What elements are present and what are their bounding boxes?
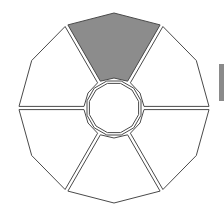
- wheel-diagram: [0, 0, 224, 214]
- center-hub[interactable]: [89, 83, 138, 132]
- side-tab[interactable]: [219, 64, 224, 101]
- dodecagon-wheel: [0, 0, 224, 214]
